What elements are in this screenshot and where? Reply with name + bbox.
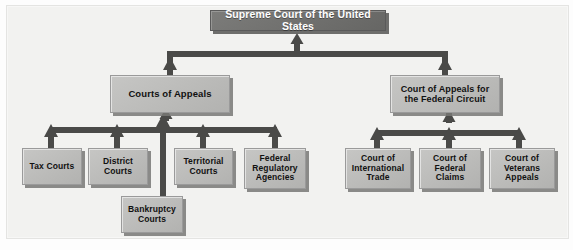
node-label: Court of Appeals for the Federal Circuit [391, 84, 499, 104]
node-court-of-appeals-federal-circuit[interactable]: Court of Appeals for the Federal Circuit [390, 75, 500, 113]
node-label: Territorial Courts [175, 157, 232, 176]
node-label: Court of Veterans Appeals [490, 154, 554, 183]
node-label: Tax Courts [26, 162, 79, 172]
node-tax-courts[interactable]: Tax Courts [22, 148, 82, 185]
connector-left-stem-bankruptcy [156, 114, 170, 197]
node-label: Bankruptcy Courts [122, 205, 182, 224]
diagram-canvas: Supreme Court of the United States Court… [0, 0, 573, 250]
node-label: Court of International Trade [346, 154, 410, 183]
node-label: District Courts [89, 157, 147, 176]
connector-top-right-branch [438, 57, 452, 75]
connector-top-left-branch [163, 57, 177, 75]
node-label: Supreme Court of the United States [211, 9, 385, 33]
node-court-of-international-trade[interactable]: Court of International Trade [345, 148, 411, 189]
node-label: Courts of Appeals [124, 89, 215, 100]
node-district-courts[interactable]: District Courts [88, 148, 148, 185]
node-territorial-courts[interactable]: Territorial Courts [174, 148, 233, 185]
connector-top-bus [167, 51, 448, 57]
node-label: Court of Federal Claims [420, 154, 480, 183]
node-label: Federal Regulatory Agencies [245, 154, 305, 183]
node-courts-of-appeals[interactable]: Courts of Appeals [110, 75, 230, 113]
connector-layer [0, 0, 573, 250]
node-court-of-veterans-appeals[interactable]: Court of Veterans Appeals [489, 148, 555, 189]
node-federal-regulatory-agencies[interactable]: Federal Regulatory Agencies [244, 148, 306, 189]
node-supreme-court[interactable]: Supreme Court of the United States [210, 10, 386, 31]
node-bankruptcy-courts[interactable]: Bankruptcy Courts [121, 196, 183, 233]
node-court-of-federal-claims[interactable]: Court of Federal Claims [419, 148, 481, 189]
